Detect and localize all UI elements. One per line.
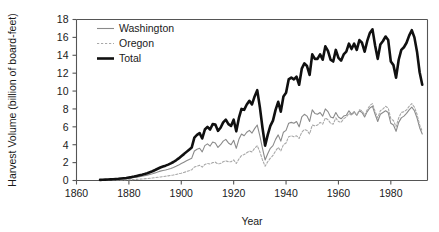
x-tick-label: 1880 — [117, 187, 141, 199]
y-tick-marks — [73, 20, 77, 181]
x-tick-label: 1940 — [274, 187, 298, 199]
x-tick-label: 1860 — [65, 187, 89, 199]
y-tick-label: 16 — [57, 31, 69, 43]
y-axis-title: Harvest Volume (billion of board-feet) — [6, 13, 18, 186]
legend-label-washington: Washington — [119, 22, 174, 34]
x-tick-label: 1920 — [222, 187, 246, 199]
x-tick-label: 1980 — [379, 187, 403, 199]
chart-figure: 024681012141618 186018801900192019401960… — [0, 0, 439, 232]
y-tick-label: 2 — [63, 156, 69, 168]
y-tick-label: 10 — [57, 85, 69, 97]
y-tick-label: 18 — [57, 13, 69, 25]
x-tick-marks — [77, 181, 391, 185]
y-tick-label: 4 — [63, 139, 69, 151]
x-tick-labels: 1860188019001920194019601980 — [65, 187, 403, 199]
y-tick-labels: 024681012141618 — [57, 13, 69, 186]
y-tick-label: 8 — [63, 103, 69, 115]
x-tick-label: 1900 — [170, 187, 194, 199]
y-tick-label: 6 — [63, 121, 69, 133]
y-tick-label: 14 — [57, 49, 69, 61]
legend-label-total: Total — [119, 52, 141, 64]
x-axis-title: Year — [241, 215, 263, 227]
y-tick-label: 12 — [57, 67, 69, 79]
series-line-total — [100, 29, 422, 180]
legend-label-oregon: Oregon — [119, 37, 154, 49]
chart-legend: Washington Oregon Total — [97, 22, 174, 64]
harvest-volume-line-chart: 024681012141618 186018801900192019401960… — [0, 0, 439, 232]
y-tick-label: 0 — [63, 174, 69, 186]
x-tick-label: 1960 — [327, 187, 351, 199]
data-series-group — [100, 29, 422, 180]
